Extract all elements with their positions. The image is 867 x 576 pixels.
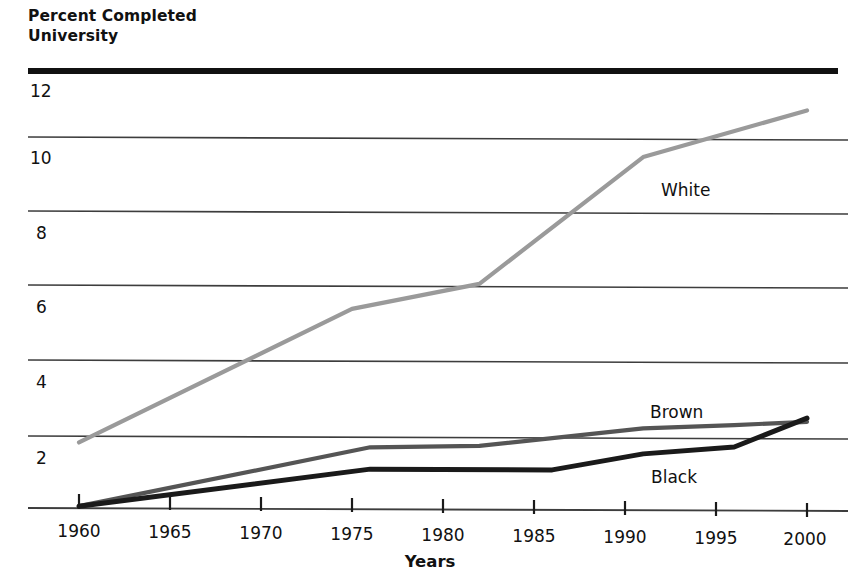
- x-tick-label-1975: 1975: [330, 524, 373, 544]
- y-tick-label-2: 2: [36, 448, 47, 468]
- series-label-black: Black: [651, 467, 697, 487]
- series-label-white: White: [661, 180, 710, 200]
- x-tick-marks: [79, 494, 807, 517]
- gridline-6: [28, 285, 848, 288]
- x-tick-label-1995: 1995: [694, 528, 737, 548]
- gridlines: [28, 137, 848, 511]
- y-tick-label-10: 10: [30, 148, 52, 168]
- x-tick-label-1990: 1990: [603, 527, 646, 547]
- x-tick-label-1970: 1970: [239, 523, 282, 543]
- y-tick-label-4: 4: [36, 372, 47, 392]
- chart-plot-area: 12 10 8 6 4 2 1960 1965 1970 1975 1980 1…: [0, 0, 867, 576]
- gridline-10: [28, 137, 848, 140]
- series-line-black: [79, 418, 807, 506]
- series-label-brown: Brown: [650, 402, 703, 422]
- x-axis-title: Years: [404, 552, 456, 571]
- series-line-white: [79, 110, 807, 442]
- line-chart: Percent Completed University 12 10 8 6 4…: [0, 0, 867, 576]
- x-tick-label-1960: 1960: [57, 521, 100, 541]
- y-tick-label-6: 6: [36, 297, 47, 317]
- gridline-4: [28, 360, 848, 363]
- gridline-2: [28, 436, 848, 439]
- x-tick-label-1985: 1985: [512, 526, 555, 546]
- x-tick-label-1965: 1965: [148, 522, 191, 542]
- gridline-0-baseline: [28, 508, 848, 511]
- data-series-layer: [79, 110, 807, 506]
- gridline-8: [28, 211, 848, 214]
- x-tick-label-1980: 1980: [421, 525, 464, 545]
- y-tick-label-12: 12: [30, 81, 52, 101]
- x-tick-label-2000: 2000: [783, 529, 826, 549]
- y-tick-label-8: 8: [36, 223, 47, 243]
